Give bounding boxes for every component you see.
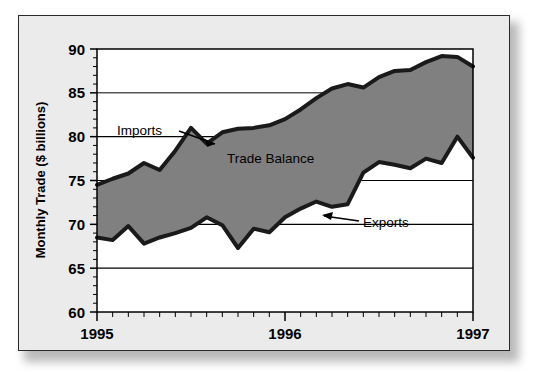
chart-panel: 60657075808590 199519961997 Monthly Trad… xyxy=(18,15,510,351)
trade-balance-area-label: Trade Balance xyxy=(227,151,314,166)
y-tick-label-75: 75 xyxy=(68,172,85,189)
y-axis-title: Monthly Trade ($ billions) xyxy=(33,102,48,259)
x-tick-label-1995: 1995 xyxy=(80,325,113,342)
y-tick-label-90: 90 xyxy=(68,41,85,58)
y-axis-ticks xyxy=(90,49,97,312)
trade-balance-area-chart: 60657075808590 199519961997 Monthly Trad… xyxy=(19,16,509,350)
y-tick-label-85: 85 xyxy=(68,84,85,101)
x-axis-tick-labels: 199519961997 xyxy=(80,325,489,342)
figure-root: 60657075808590 199519961997 Monthly Trad… xyxy=(0,0,534,379)
y-tick-label-60: 60 xyxy=(68,304,85,321)
y-tick-label-80: 80 xyxy=(68,128,85,145)
x-tick-label-1997: 1997 xyxy=(456,325,489,342)
y-tick-label-65: 65 xyxy=(68,260,85,277)
imports-annotation-label: Imports xyxy=(117,123,162,138)
y-axis-tick-labels: 60657075808590 xyxy=(68,41,85,321)
x-axis-ticks xyxy=(97,312,473,321)
x-tick-label-1996: 1996 xyxy=(268,325,301,342)
exports-annotation-label: Exports xyxy=(363,215,409,230)
y-tick-label-70: 70 xyxy=(68,216,85,233)
